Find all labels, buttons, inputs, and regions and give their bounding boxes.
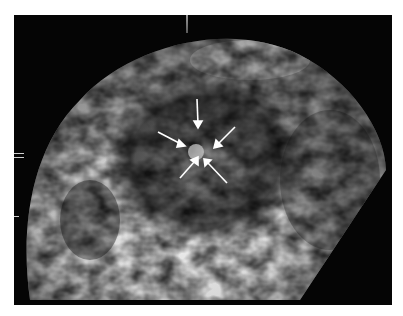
scale-tick-upper-b	[14, 157, 24, 158]
ultrasound-scan-image	[14, 15, 392, 305]
scale-tick-upper-a	[14, 153, 24, 154]
scale-tick-lower	[14, 216, 19, 217]
probe-marker-top	[186, 15, 188, 33]
ultrasound-frame	[14, 15, 392, 305]
